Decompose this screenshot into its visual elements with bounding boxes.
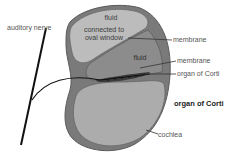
- label-membrane-upper: membrane: [173, 36, 206, 44]
- auditory-nerve-line: [21, 28, 46, 145]
- lower-chamber: [73, 81, 165, 146]
- label-connected-to: connected to: [74, 26, 134, 34]
- label-oval-window: oval window: [74, 34, 134, 42]
- label-membrane-lower: membrane: [177, 57, 210, 65]
- label-organ-of-corti-pointer: organ of Corti: [177, 70, 219, 78]
- label-organ-of-corti-title: organ of Corti: [174, 100, 224, 108]
- label-fluid-middle: fluid: [130, 54, 150, 62]
- label-cochlea: cochlea: [158, 131, 182, 139]
- label-fluid-top: fluid: [96, 14, 126, 22]
- label-auditory-nerve: auditory nerve: [7, 24, 51, 32]
